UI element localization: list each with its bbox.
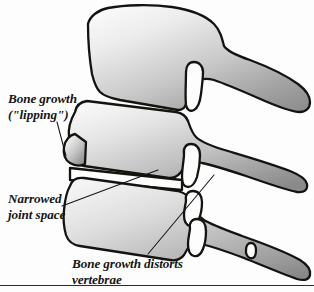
lipping-osteophyte-middle	[64, 134, 86, 165]
label-bone-growth-lipping-line2: ("lipping")	[8, 107, 68, 122]
label-narrowed-joint-space-line1: Narrowed	[7, 191, 62, 206]
label-narrowed-joint-space-line2: joint space	[6, 207, 65, 222]
lower-process-step-notch	[246, 243, 256, 258]
lower-vertebra-distortion-notch	[188, 219, 206, 256]
illustration-figure: Bone growth ("lipping") Narrowed joint s…	[0, 0, 314, 292]
spine-illustration-svg: Bone growth ("lipping") Narrowed joint s…	[0, 0, 314, 292]
label-bone-growth-distorts-line1: Bone growth distorts	[71, 256, 183, 271]
label-bone-growth-distorts-line2: vertebrae	[72, 272, 122, 287]
label-bone-growth-lipping-line1: Bone growth	[7, 91, 77, 106]
